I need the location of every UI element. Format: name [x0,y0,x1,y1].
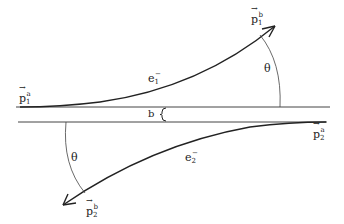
label-p1-initial: →p1a [19,91,31,106]
label-p1-final: →p1b [251,12,263,27]
label-e1: e1− [148,71,161,86]
label-impact-parameter-b: b [148,109,154,119]
trajectory-e1 [20,26,275,107]
label-theta-lower: θ [71,152,78,163]
impact-parameter-brace [160,108,166,121]
label-p2-initial: →p2a [313,127,325,142]
label-theta-upper: θ [264,63,271,74]
diagram-lines [0,0,344,224]
scattering-diagram: →p1a →p1b e1− θ b θ e2− →p2a →p2b [0,0,344,224]
label-p2-final: →p2b [86,204,98,219]
label-e2: e2− [185,150,198,165]
